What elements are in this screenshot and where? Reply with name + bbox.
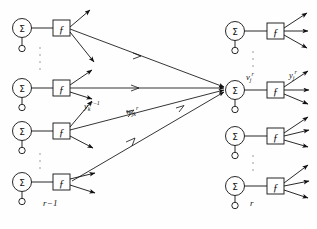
svg-text:ƒ: ƒ: [273, 181, 279, 193]
layer-label-right: r: [250, 198, 254, 208]
svg-text:ƒ: ƒ: [273, 85, 279, 97]
svg-text:Σ: Σ: [232, 132, 238, 142]
svg-text:Σ: Σ: [19, 178, 25, 188]
neuron-left-0: [13, 10, 95, 62]
right-layer-neurons: [226, 13, 310, 209]
svg-text:ƒ: ƒ: [273, 26, 279, 38]
vertical-ellipses: [39, 47, 254, 171]
layer-label-left: r−1: [43, 198, 58, 208]
label-output-activation: yjr: [289, 69, 297, 81]
neuron-right-2: [226, 117, 310, 159]
left-layer-neurons: [13, 10, 96, 205]
svg-text:ƒ: ƒ: [59, 83, 65, 95]
svg-text:ƒ: ƒ: [273, 131, 279, 143]
svg-text:Σ: Σ: [232, 86, 238, 96]
neuron-right-0: [226, 13, 309, 54]
label-input-activation: ykr−1: [84, 100, 100, 112]
figure-canvas: Σ Σ Σ Σ Σ Σ Σ Σ ƒ ƒ ƒ ƒ ƒ ƒ ƒ ƒ ykr−1 wj…: [0, 0, 317, 229]
neuron-right-3: [226, 165, 310, 209]
svg-text:ƒ: ƒ: [59, 126, 65, 138]
svg-text:Σ: Σ: [232, 182, 238, 192]
svg-text:Σ: Σ: [19, 84, 25, 94]
label-weight: wjkr: [126, 105, 138, 117]
network-diagram-svg: Σ Σ Σ Σ Σ Σ Σ Σ ƒ ƒ ƒ ƒ ƒ ƒ ƒ ƒ: [0, 0, 317, 229]
label-induced-field: vjr: [246, 71, 254, 83]
svg-text:ƒ: ƒ: [59, 177, 65, 189]
edge-from-left-0: [70, 29, 224, 87]
svg-text:ƒ: ƒ: [59, 23, 65, 35]
svg-text:Σ: Σ: [19, 24, 25, 34]
svg-text:Σ: Σ: [19, 127, 25, 137]
svg-text:Σ: Σ: [232, 27, 238, 37]
